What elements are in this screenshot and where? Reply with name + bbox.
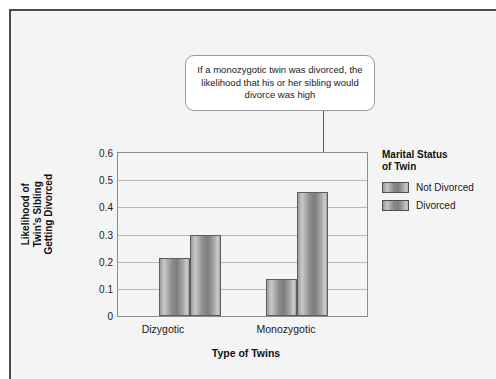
y-axis-tick-label: 0.4 [87, 202, 113, 213]
x-axis-title: Type of Twins [151, 347, 341, 359]
legend-entries: Not DivorcedDivorced [382, 182, 496, 211]
y-axis-tick-labels: 0.60.50.40.30.20.10 [83, 152, 113, 317]
figure-panel: If a monozygotic twin was divorced, the … [9, 9, 496, 379]
bars-layer [118, 153, 367, 316]
y-axis-tick-label: 0.1 [87, 283, 113, 294]
legend: Marital Status of Twin Not DivorcedDivor… [382, 149, 496, 218]
bar-monozygotic-not-divorced[interactable] [266, 279, 297, 316]
legend-swatch-icon [382, 200, 409, 211]
legend-title-line-2: of Twin [382, 161, 496, 173]
figure: If a monozygotic twin was divorced, the … [0, 0, 496, 379]
y-axis-title-line-1: Likelihood of [20, 144, 32, 284]
annotation-text: If a monozygotic twin was divorced, the … [186, 64, 374, 102]
y-axis-tick-label: 0.6 [87, 148, 113, 159]
x-axis-label-monozygotic: Monozygotic [231, 323, 341, 335]
bar-group-monozygotic [266, 153, 328, 316]
y-axis-tick-label: 0.2 [87, 256, 113, 267]
bar-dizygotic-divorced[interactable] [190, 235, 221, 317]
y-axis-title-line-2: Twin's Sibling [31, 144, 43, 284]
x-axis-label-dizygotic: Dizygotic [108, 323, 218, 335]
y-axis-title-line-3: Getting Divorced [43, 144, 55, 284]
y-axis-tick-label: 0 [87, 311, 113, 322]
legend-title: Marital Status of Twin [382, 149, 496, 173]
y-axis-title: Likelihood of Twin's Sibling Getting Div… [20, 144, 55, 284]
legend-label: Not Divorced [416, 182, 474, 193]
bar-group-dizygotic [159, 153, 221, 316]
annotation-callout: If a monozygotic twin was divorced, the … [185, 55, 375, 111]
legend-entry-not-divorced[interactable]: Not Divorced [382, 182, 496, 193]
bar-dizygotic-not-divorced[interactable] [159, 258, 190, 316]
legend-swatch-icon [382, 182, 409, 193]
y-axis-tick-label: 0.3 [87, 229, 113, 240]
legend-entry-divorced[interactable]: Divorced [382, 200, 496, 211]
y-axis-tick-label: 0.5 [87, 175, 113, 186]
legend-label: Divorced [416, 200, 455, 211]
bar-monozygotic-divorced[interactable] [297, 192, 328, 316]
legend-title-line-1: Marital Status [382, 149, 496, 161]
